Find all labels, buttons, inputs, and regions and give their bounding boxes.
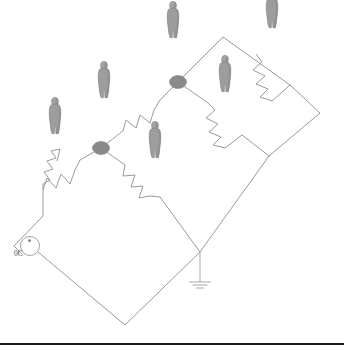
voltage-source-polarity-mark xyxy=(28,240,31,242)
resistor-left-lower-zig xyxy=(43,160,80,190)
circuit-diagram: 0C xyxy=(0,0,344,352)
resistor-right-middle xyxy=(206,103,242,148)
person-figure-4 xyxy=(149,121,161,157)
people-group xyxy=(49,0,278,158)
diagram-canvas: 0C xyxy=(0,0,344,352)
node-lower xyxy=(93,142,110,155)
person-figure-3 xyxy=(167,1,179,37)
resistors-group xyxy=(43,54,290,198)
ground-symbol xyxy=(189,252,211,288)
voltage-source-label: 0C xyxy=(14,249,23,258)
wires-group xyxy=(14,37,320,325)
voltage-source-circle xyxy=(21,237,40,256)
node-upper xyxy=(170,76,187,89)
resistor-middle xyxy=(123,165,160,198)
wire-ground-node-to-mid-corner xyxy=(200,156,269,252)
voltage-source xyxy=(21,237,40,256)
person-figure-1 xyxy=(49,97,61,133)
person-figure-2 xyxy=(98,61,110,97)
wire-right-top-resistor-to-far-corner xyxy=(269,85,320,156)
person-figure-5 xyxy=(219,55,231,91)
person-figure-6 xyxy=(266,0,278,28)
wire-right-resistor-to-mid-corner xyxy=(242,135,269,156)
wire-source-bottom-loop xyxy=(38,252,200,325)
wire-node-upper-to-top-corner xyxy=(178,37,290,85)
resistor-right-top xyxy=(253,54,290,101)
bottom-horizontal-rule xyxy=(0,343,344,345)
wire-middle-resistor-to-ground-node xyxy=(160,197,200,252)
